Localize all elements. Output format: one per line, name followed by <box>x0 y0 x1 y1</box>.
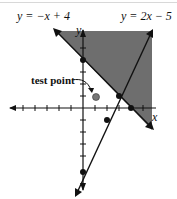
x-axis-label: x <box>151 110 158 124</box>
line2-label: y = 2x − 5 <box>120 9 172 23</box>
test-point-arrowhead <box>88 88 94 93</box>
y-axis-label: y <box>75 23 82 37</box>
point-4-0 <box>128 105 134 111</box>
point-0-4 <box>80 57 86 63</box>
point-3-1 <box>116 93 122 99</box>
test-point-label: test point <box>31 74 75 86</box>
line1-label: y = −x + 4 <box>16 9 70 23</box>
x-axis-arrow-left <box>9 105 16 111</box>
inequality-graph: y = −x + 4 y = 2x − 5 y x test point <box>0 0 177 199</box>
test-point-marker <box>93 94 100 101</box>
test-point-arrow <box>72 79 91 90</box>
point-2-neg1 <box>104 117 110 123</box>
point-0-neg5 <box>80 169 86 175</box>
shaded-region <box>56 31 152 108</box>
